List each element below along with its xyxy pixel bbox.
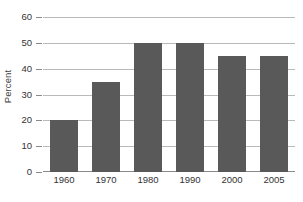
bar bbox=[260, 56, 288, 172]
y-axis-tick-mark bbox=[36, 69, 42, 70]
bar bbox=[218, 56, 246, 172]
x-axis-tick-label: 1960 bbox=[43, 175, 85, 185]
x-axis-tick-label: 1970 bbox=[85, 175, 127, 185]
x-axis-tick-label: 2005 bbox=[253, 175, 295, 185]
y-axis-tick-label: 30 bbox=[0, 90, 32, 100]
bars-layer bbox=[43, 17, 295, 172]
y-axis-tick-mark bbox=[36, 95, 42, 96]
y-axis-tick-label: 0 bbox=[0, 167, 32, 177]
bar bbox=[92, 82, 120, 172]
bar bbox=[50, 120, 78, 172]
x-axis-tick-label: 1990 bbox=[169, 175, 211, 185]
bar-chart: Percent 0102030405060 196019701980199020… bbox=[0, 0, 303, 202]
x-axis-labels: 196019701980199020002005 bbox=[43, 175, 295, 195]
y-axis-tick-mark bbox=[36, 17, 42, 18]
y-axis-tick-mark bbox=[36, 172, 42, 173]
y-axis-tick-label: 10 bbox=[0, 141, 32, 151]
y-axis-tick-mark bbox=[36, 146, 42, 147]
y-axis-tick-label: 60 bbox=[0, 12, 32, 22]
y-axis-tick-label: 50 bbox=[0, 38, 32, 48]
y-axis-tick-label: 40 bbox=[0, 64, 32, 74]
x-axis-tick-label: 1980 bbox=[127, 175, 169, 185]
bar bbox=[134, 43, 162, 172]
x-axis-tick-label: 2000 bbox=[211, 175, 253, 185]
y-axis-tick-mark bbox=[36, 120, 42, 121]
y-axis-tick-label: 20 bbox=[0, 116, 32, 126]
bar bbox=[176, 43, 204, 172]
y-axis-tick-mark bbox=[36, 43, 42, 44]
